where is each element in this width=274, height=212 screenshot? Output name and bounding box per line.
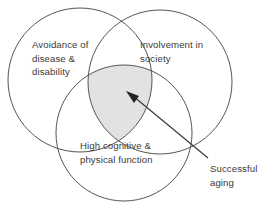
venn-diagram-canvas: Avoidance of disease & disability Involv… (0, 0, 274, 212)
label-avoidance-of-disease-and-disability: Avoidance of disease & disability (32, 38, 89, 79)
label-successful-aging: Successful aging (210, 162, 257, 189)
label-involvement-in-society: Involvement in society (140, 38, 203, 65)
label-high-cognitive-and-physical-function: High cognitive & physical function (80, 139, 153, 166)
triple-intersection-shade (56, 65, 192, 201)
